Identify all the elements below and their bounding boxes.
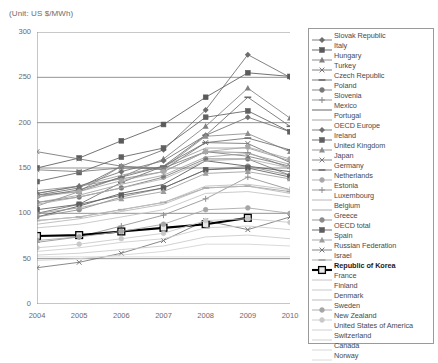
legend-item-sweden[interactable]: Sweden [311,301,433,311]
y-tick-50: 50 [5,255,31,263]
legend-item-israel[interactable]: Israel [311,251,433,261]
legend-label: Ireland [333,131,356,141]
legend-marker-x-icon [311,61,333,71]
legend-item-czech-republic[interactable]: Czech Republic [311,71,433,81]
legend-item-russian-federation[interactable]: Russian Federation [311,241,433,251]
legend-item-hungary[interactable]: Hungary [311,51,433,61]
legend-label: France [333,271,356,281]
legend-label: United States of America [333,321,413,331]
series-canada [37,244,290,260]
legend-item-france[interactable]: France [311,271,433,281]
legend-marker-circle-icon [311,301,333,311]
legend-marker-circle-icon [311,81,333,91]
legend-item-greece[interactable]: Greece [311,211,433,221]
unit-label: (Unit: US $/MWh) [9,9,73,18]
legend-marker-none-icon [311,291,333,301]
legend-label: Slovenia [333,91,362,101]
series-italy [37,70,290,170]
y-tick-0: 0 [5,300,31,308]
legend-label: Japan [333,151,354,161]
line-chart-svg [37,32,290,304]
legend-label: Russian Federation [333,241,396,251]
legend-label: New Zealand [333,311,376,321]
x-tick-2006: 2006 [104,312,138,320]
legend-marker-square-icon [311,221,333,231]
legend-marker-triangle-icon [311,231,333,241]
legend-item-slovak-republic[interactable]: Slovak Republic [311,31,433,41]
legend-label: Canada [333,341,359,351]
legend-item-portugal[interactable]: Portugal [311,111,433,121]
legend-item-germany[interactable]: Germany [311,161,433,171]
legend-marker-x-icon [311,241,333,251]
legend-marker-circle-icon [311,211,333,221]
legend-label: Luxembourg [333,191,374,201]
x-tick-2004: 2004 [20,312,54,320]
legend-item-norway[interactable]: Norway [311,351,433,361]
legend-item-belgium[interactable]: Belgium [311,201,433,211]
plot-area [37,32,290,304]
legend-label: Poland [333,81,356,91]
legend-label: Israel [333,251,352,261]
legend-label: Italy [333,41,347,51]
legend-marker-none-icon [311,321,333,331]
legend-label: Republic of Korea [333,261,396,271]
legend-item-finland[interactable]: Finland [311,281,433,291]
legend-item-united-kingdom[interactable]: United Kingdom [311,141,433,151]
legend-item-slovenia[interactable]: Slovenia [311,91,433,101]
x-tick-2008: 2008 [189,312,223,320]
legend-item-new-zealand[interactable]: New Zealand [311,311,433,321]
legend-label: OECD Europe [333,121,380,131]
x-tick-2007: 2007 [147,312,181,320]
legend-marker-circle-icon [311,311,333,321]
legend-label: Greece [333,211,358,221]
legend-item-ireland[interactable]: Ireland [311,131,433,141]
legend-item-spain[interactable]: Spain [311,231,433,241]
legend-item-luxembourg[interactable]: Luxembourg [311,191,433,201]
legend-item-netherlands[interactable]: Netherlands [311,171,433,181]
legend-item-oecd-europe[interactable]: OECD Europe [311,121,433,131]
x-tick-2010: 2010 [273,312,307,320]
legend-marker-none-icon [311,341,333,351]
legend-item-denmark[interactable]: Denmark [311,291,433,301]
legend-item-switzerland[interactable]: Switzerland [311,331,433,341]
legend-item-estonia[interactable]: Estonia [311,181,433,191]
series-layer [37,52,290,270]
legend-item-oecd-total[interactable]: OECD total [311,221,433,231]
legend-marker-dash-icon [311,71,333,81]
series-hungary [37,85,290,198]
legend-marker-diamond-icon [311,121,333,131]
legend-marker-opensquare-icon [311,261,333,271]
legend-label: Finland [333,281,358,291]
legend-item-japan[interactable]: Japan [311,151,433,161]
legend-marker-x-icon [311,151,333,161]
legend-marker-none-icon [311,271,333,281]
legend-label: Hungary [333,51,361,61]
y-tick-250: 250 [5,73,31,81]
y-tick-200: 200 [5,119,31,127]
y-tick-300: 300 [5,28,31,36]
x-tick-2009: 2009 [231,312,265,320]
legend-item-united-states-of-america[interactable]: United States of America [311,321,433,331]
legend[interactable]: Slovak RepublicItalyHungaryTurkeyCzech R… [308,28,434,344]
legend-marker-triangle-icon [311,141,333,151]
legend-label: Germany [333,161,364,171]
legend-marker-dash-icon [311,251,333,261]
y-tick-150: 150 [5,164,31,172]
legend-marker-square-icon [311,131,333,141]
legend-marker-none-icon [311,351,333,361]
legend-item-italy[interactable]: Italy [311,41,433,51]
legend-item-mexico[interactable]: Mexico [311,101,433,111]
legend-label: Czech Republic [333,71,384,81]
legend-item-canada[interactable]: Canada [311,341,433,351]
legend-label: Portugal [333,111,361,121]
legend-marker-none-icon [311,331,333,341]
legend-item-republic-of-korea[interactable]: Republic of Korea [311,261,433,271]
legend-item-poland[interactable]: Poland [311,81,433,91]
legend-marker-none-icon [311,281,333,291]
legend-marker-none-icon [311,201,333,211]
legend-item-turkey[interactable]: Turkey [311,61,433,71]
legend-label: Belgium [333,201,360,211]
legend-marker-none-icon [311,191,333,201]
legend-marker-circle-icon [311,171,333,181]
y-tick-100: 100 [5,209,31,217]
